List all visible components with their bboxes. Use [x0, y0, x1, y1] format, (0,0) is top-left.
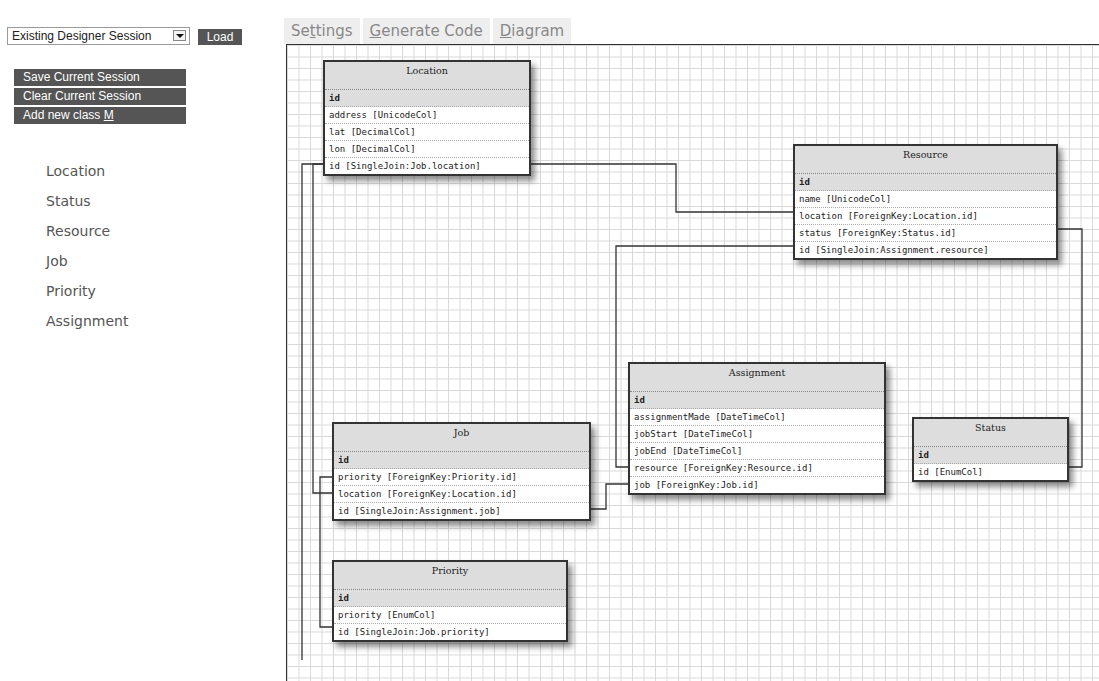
table-row: id [914, 447, 1067, 464]
tab-diagram[interactable]: Diagram [493, 18, 571, 44]
table-row: id [SingleJoin:Job.priority] [334, 624, 566, 640]
table-row: lon [DecimalCol] [325, 141, 529, 158]
table-title: Resource [795, 146, 1056, 174]
table-row: id [EnumCol] [914, 464, 1067, 480]
table-row: id [334, 452, 589, 469]
table-title: Job [334, 424, 589, 452]
session-select[interactable]: Existing Designer Session [7, 27, 190, 45]
table-row: job [ForeignKey:Job.id] [630, 477, 884, 493]
chevron-down-icon[interactable] [173, 30, 186, 41]
table-row: assignmentMade [DateTimeCol] [630, 409, 884, 426]
tab-bar: Settings Generate Code Diagram [284, 18, 574, 44]
table-row: jobEnd [DateTimeCol] [630, 443, 884, 460]
add-class-button[interactable]: Add new class M [14, 107, 186, 124]
table-row: priority [ForeignKey:Priority.id] [334, 469, 589, 486]
table-row: priority [EnumCol] [334, 607, 566, 624]
class-item-status[interactable]: Status [46, 191, 128, 221]
table-row: address [UnicodeCol] [325, 107, 529, 124]
table-row: id [SingleJoin:Job.location] [325, 158, 529, 174]
table-row: id [SingleJoin:Assignment.resource] [795, 242, 1056, 258]
table-title: Priority [334, 562, 566, 590]
clear-session-button[interactable]: Clear Current Session [14, 88, 186, 105]
table-row: id [630, 392, 884, 409]
tab-settings-post: tings [316, 22, 353, 40]
class-item-job[interactable]: Job [46, 251, 128, 281]
tab-settings[interactable]: Settings [284, 18, 360, 44]
class-item-assignment[interactable]: Assignment [46, 311, 128, 341]
table-row: location [ForeignKey:Location.id] [795, 208, 1056, 225]
table-row: location [ForeignKey:Location.id] [334, 486, 589, 503]
save-session-button[interactable]: Save Current Session [14, 69, 186, 86]
table-resource[interactable]: Resource id name [UnicodeCol] location [… [793, 144, 1058, 260]
add-class-accesskey: M [104, 108, 114, 122]
class-item-resource[interactable]: Resource [46, 221, 128, 251]
class-item-priority[interactable]: Priority [46, 281, 128, 311]
load-button[interactable]: Load [198, 29, 242, 45]
table-row: id [795, 174, 1056, 191]
class-item-location[interactable]: Location [46, 161, 128, 191]
tab-generate-code-post: enerate Code [381, 22, 483, 40]
table-location[interactable]: Location id address [UnicodeCol] lat [De… [323, 60, 531, 176]
table-row: jobStart [DateTimeCol] [630, 426, 884, 443]
table-title: Status [914, 419, 1067, 447]
table-row: id [334, 590, 566, 607]
table-row: resource [ForeignKey:Resource.id] [630, 460, 884, 477]
table-row: status [ForeignKey:Status.id] [795, 225, 1056, 242]
table-title: Location [325, 62, 529, 90]
add-class-label: Add new class [23, 108, 104, 122]
table-row: id [SingleJoin:Assignment.job] [334, 503, 589, 519]
table-status[interactable]: Status id id [EnumCol] [912, 417, 1069, 482]
tab-diagram-post: iagram [511, 22, 564, 40]
table-assignment[interactable]: Assignment id assignmentMade [DateTimeCo… [628, 362, 886, 495]
tab-generate-code-key: G [370, 22, 382, 40]
table-title: Assignment [630, 364, 884, 392]
table-row: name [UnicodeCol] [795, 191, 1056, 208]
table-row: id [325, 90, 529, 107]
class-list: Location Status Resource Job Priority As… [46, 161, 128, 341]
table-job[interactable]: Job id priority [ForeignKey:Priority.id]… [332, 422, 591, 521]
session-select-value: Existing Designer Session [12, 29, 151, 43]
tab-diagram-key: D [500, 22, 512, 40]
tab-generate-code[interactable]: Generate Code [363, 18, 490, 44]
tab-settings-pre: Se [291, 22, 310, 40]
table-priority[interactable]: Priority id priority [EnumCol] id [Singl… [332, 560, 568, 642]
table-row: lat [DecimalCol] [325, 124, 529, 141]
